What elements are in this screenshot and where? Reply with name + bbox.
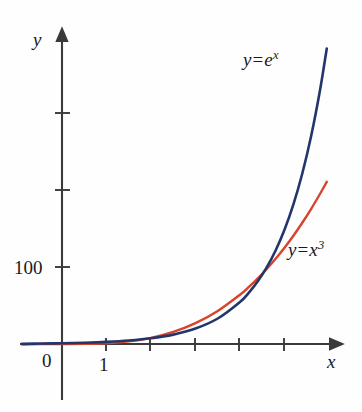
figure-canvas: y x 100 0 1 y=ex y=x3 — [0, 0, 362, 412]
origin-label: 0 — [42, 351, 52, 370]
curve-label-exponential: y=ex — [243, 50, 279, 69]
equals-sign: = — [251, 49, 264, 70]
curve-e-to-the-x — [22, 49, 327, 344]
exponent-3: 3 — [318, 238, 325, 252]
curve-x-cubed — [22, 182, 327, 345]
exponent-x: x — [273, 48, 279, 62]
equals-sign: = — [296, 239, 309, 260]
x-axis-label: x — [327, 352, 335, 371]
x-tick-label-1: 1 — [99, 355, 109, 374]
plot-svg — [0, 0, 362, 412]
y-axis-label: y — [33, 30, 41, 49]
y-tick-label-100: 100 — [14, 258, 43, 277]
curve-label-cubic: y=x3 — [288, 240, 324, 259]
curve-label-exponential-rhs: ex — [264, 49, 279, 70]
curve-label-cubic-rhs: x3 — [309, 239, 324, 260]
